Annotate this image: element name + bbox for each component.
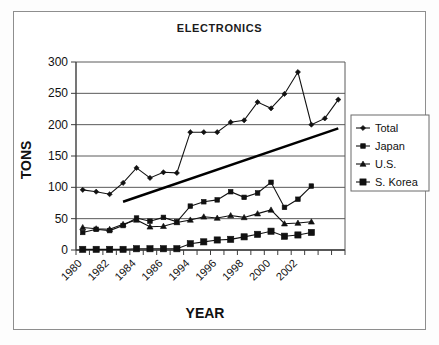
data-point [120,246,126,252]
data-point [147,246,153,252]
data-point [241,234,247,240]
data-point [174,246,180,252]
series-s-korea [80,228,315,252]
data-point [268,207,274,212]
y-tick-label: 50 [55,212,69,226]
y-tick-label: 200 [48,118,68,132]
data-point [282,205,287,210]
data-point [309,122,314,127]
data-point [94,189,99,194]
data-point [133,246,139,252]
data-point [308,229,314,235]
series-total [80,69,341,196]
data-point [174,170,179,175]
x-axis-title: YEAR [186,305,225,321]
data-point [296,197,301,202]
y-tick-label: 100 [48,180,68,194]
figure-root: ELECTRONICS 050100150200250300 198019821… [0,0,439,345]
series-japan [80,180,313,235]
x-tick-label: 1986 [139,257,165,283]
series-path [83,182,312,232]
data-point [215,198,220,203]
data-point [281,233,287,239]
legend-label: Total [375,122,398,134]
data-point [160,246,166,252]
data-point [295,232,301,238]
data-point [161,215,166,220]
data-point [201,199,206,204]
data-point [228,213,234,218]
y-axis-title: TONS [18,141,34,180]
data-point [187,241,193,247]
x-tick-label: 2000 [247,257,273,283]
x-axis [76,250,345,255]
y-tick-label: 150 [48,149,68,163]
gridlines-group [76,62,345,250]
data-point [80,187,85,192]
data-series-group [80,69,341,252]
chart-canvas: 050100150200250300 198019821984198619941… [0,0,439,345]
series-path [83,72,339,194]
data-point [161,170,166,175]
chart-legend: TotalJapanU.S.S. Korea [351,115,429,191]
series-path [83,210,312,229]
data-point [254,231,260,237]
y-tick-label: 0 [61,243,68,257]
data-point [269,180,274,185]
data-point [188,204,193,209]
y-tick-label: 250 [48,86,68,100]
data-point [228,236,234,242]
data-point [80,246,86,252]
data-point [214,237,220,243]
legend-swatch-marker [361,144,366,149]
series-path [83,231,312,249]
data-point [93,246,99,252]
data-point [201,130,206,135]
legend-label: U.S. [375,158,396,170]
x-tick-label: 1994 [166,257,192,283]
y-tick-label: 300 [48,55,68,69]
data-point [309,184,314,189]
y-axis [71,62,76,250]
data-point [80,230,85,235]
x-tick-label: 1984 [112,257,138,283]
data-point [148,219,153,224]
x-tick-label: 2002 [274,257,300,283]
x-tick-label: 1998 [220,257,246,283]
data-point [107,246,113,252]
data-point [201,239,207,245]
legend-label: Japan [375,140,405,152]
data-point [255,191,260,196]
data-point [188,130,193,135]
series-u-s- [80,207,315,232]
data-point [295,69,300,74]
data-point [242,195,247,200]
x-tick-labels: 198019821984198619941996199820002002 [58,257,299,283]
y-tick-labels: 050100150200250300 [48,55,68,257]
legend-label: S. Korea [375,176,419,188]
x-tick-label: 1980 [58,257,84,283]
data-point [228,189,233,194]
x-tick-label: 1982 [85,257,111,283]
legend-swatch-marker [360,179,366,185]
x-tick-label: 1996 [193,257,219,283]
data-point [268,228,274,234]
